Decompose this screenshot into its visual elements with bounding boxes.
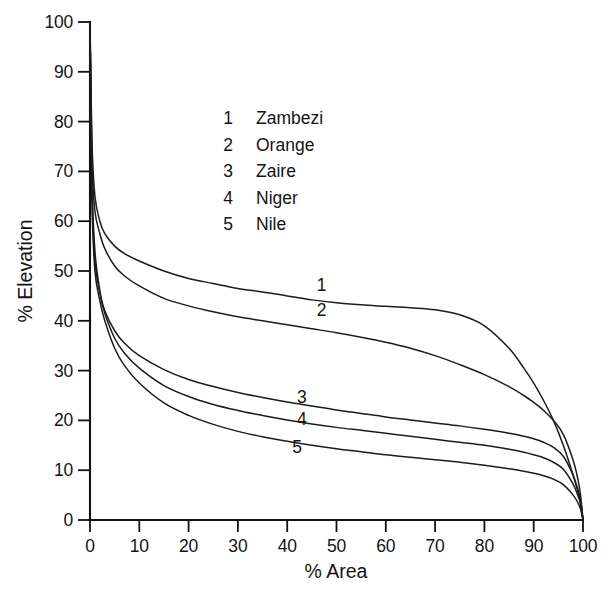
y-tick-label-20: 20	[54, 410, 74, 430]
legend-label-orange: Orange	[256, 135, 314, 155]
legend-key-5: 5	[223, 214, 233, 234]
y-tick-label-10: 10	[54, 460, 74, 480]
x-tick-label-10: 10	[130, 536, 150, 556]
curve-label-2: 2	[317, 300, 327, 320]
x-tick-label-80: 80	[475, 536, 495, 556]
y-tick-label-100: 100	[44, 12, 73, 32]
legend-label-zaire: Zaire	[256, 161, 296, 181]
y-tick-label-90: 90	[54, 62, 74, 82]
legend-label-niger: Niger	[256, 188, 298, 208]
x-tick-label-0: 0	[85, 536, 95, 556]
legend-key-3: 3	[223, 161, 233, 181]
x-tick-label-20: 20	[179, 536, 199, 556]
curve-label-5: 5	[292, 437, 302, 457]
legend-key-4: 4	[223, 188, 233, 208]
y-tick-label-60: 60	[54, 211, 74, 231]
x-tick-label-30: 30	[228, 536, 248, 556]
x-tick-label-60: 60	[376, 536, 396, 556]
legend-label-nile: Nile	[256, 214, 286, 234]
y-tick-label-80: 80	[54, 112, 74, 132]
hypsometric-curve-figure: 0102030405060708090100 01020304050607080…	[0, 0, 610, 594]
x-tick-label-70: 70	[426, 536, 446, 556]
legend-key-2: 2	[223, 135, 233, 155]
x-tick-label-50: 50	[327, 536, 347, 556]
y-tick-label-30: 30	[54, 361, 74, 381]
curve-label-1: 1	[317, 275, 327, 295]
curve-label-3: 3	[297, 387, 307, 407]
curve-label-4: 4	[297, 409, 307, 429]
x-tick-label-40: 40	[278, 536, 298, 556]
legend-label-zambezi: Zambezi	[256, 108, 323, 128]
x-tick-label-100: 100	[569, 536, 598, 556]
legend-key-1: 1	[223, 108, 233, 128]
x-tick-label-90: 90	[524, 536, 544, 556]
y-tick-label-50: 50	[54, 261, 74, 281]
y-tick-label-0: 0	[63, 510, 73, 530]
x-axis-title: % Area	[305, 560, 368, 582]
y-tick-label-40: 40	[54, 311, 74, 331]
y-axis-title: % Elevation	[14, 220, 36, 323]
chart-canvas: 0102030405060708090100 01020304050607080…	[0, 0, 610, 594]
y-tick-label-70: 70	[54, 161, 74, 181]
